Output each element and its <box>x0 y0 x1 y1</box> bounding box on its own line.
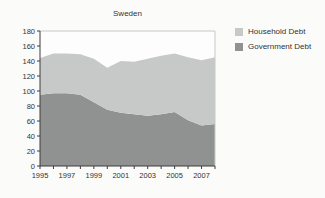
legend: Household Debt Government Debt <box>235 24 311 54</box>
x-axis-tick-label: 2001 <box>112 171 129 180</box>
y-axis-tick-label: 180 <box>22 27 35 36</box>
legend-label-household-debt: Household Debt <box>248 27 305 36</box>
x-axis-tick-label: 1995 <box>32 171 49 180</box>
y-axis-tick-label: 20 <box>27 147 35 156</box>
x-axis-tick-label: 2005 <box>166 171 183 180</box>
legend-label-government-debt: Government Debt <box>248 42 311 51</box>
legend-item-government-debt: Government Debt <box>235 39 311 54</box>
x-axis-tick-label: 2007 <box>193 171 210 180</box>
x-axis-tick-label: 1997 <box>59 171 76 180</box>
government-debt-swatch-icon <box>235 43 243 51</box>
legend-item-household-debt: Household Debt <box>235 24 311 39</box>
y-axis-tick-label: 140 <box>22 57 35 66</box>
y-axis-tick-label: 60 <box>27 117 35 126</box>
chart-container: Sweden 020406080100120140160180199519971… <box>0 0 325 198</box>
y-axis-tick-label: 120 <box>22 72 35 81</box>
y-axis-tick-label: 160 <box>22 42 35 51</box>
household-debt-swatch-icon <box>235 28 243 36</box>
x-axis-tick-label: 1999 <box>86 171 103 180</box>
y-axis-tick-label: 80 <box>27 102 35 111</box>
y-axis-tick-label: 100 <box>22 87 35 96</box>
x-axis-tick-label: 2003 <box>139 171 156 180</box>
y-axis-tick-label: 0 <box>31 162 35 171</box>
y-axis-tick-label: 40 <box>27 132 35 141</box>
